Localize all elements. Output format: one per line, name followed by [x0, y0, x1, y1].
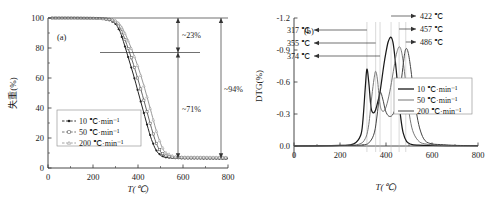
panel-a-legend-label: 10 ℃·min⁻¹: [79, 117, 120, 126]
panel-a-y-ticks: 020406080100: [31, 13, 51, 173]
panel-b-y-tick-label: 0.0: [279, 141, 290, 151]
panel-a-curve-marker: [159, 153, 161, 155]
panel-a-curve-marker: [140, 100, 142, 102]
panel-b-left-annotation-label: 374 ℃: [287, 52, 310, 61]
panel-b-y-tick-label: -0.3: [277, 109, 290, 119]
panel-a-x-axis-title: T(℃): [128, 184, 149, 194]
panel-a-curve-marker: [136, 64, 139, 67]
panel-a-curve-marker: [149, 134, 151, 136]
panel-a-curve-marker: [105, 17, 108, 20]
panel-a-x-tick-label: 600: [177, 172, 190, 182]
panel-b-x-tick-label: 0: [292, 150, 296, 160]
panel-a-curve-marker: [159, 149, 161, 151]
annotation-71-label: ~71%: [182, 105, 201, 114]
panel-a-curve-marker: [152, 143, 154, 145]
panel-a-curve-marker: [121, 36, 123, 38]
panel-a-curve-marker: [152, 133, 154, 135]
panel-a-curve-marker: [190, 156, 193, 159]
panel-a-curve-marker: [209, 156, 212, 159]
panel-a-curve-marker: [212, 156, 215, 159]
panel-a-curve-marker: [155, 130, 158, 133]
panel-b-right-annotation-label: 486 ℃: [420, 38, 443, 47]
panel-a-curve-marker: [149, 107, 152, 110]
panel-b-x-tick-label: 400: [380, 150, 393, 160]
panel-a-svg: 020406080100 0200400600800: [0, 0, 248, 204]
figure-tga-dtg: 020406080100 0200400600800: [0, 0, 496, 204]
panel-a-curve-marker: [165, 155, 167, 157]
panel-a-curve-marker: [133, 55, 136, 58]
panel-a-curve-marker: [118, 25, 120, 27]
panel-b-svg: 0.0-0.3-0.6-0.9-1.2 0200400600800 317 ℃3…: [248, 0, 496, 204]
panel-b-x-axis-title: T(℃): [376, 182, 397, 192]
panel-a-curve-marker: [152, 118, 155, 121]
panel-a-annotation-arrow-23: [176, 18, 180, 53]
panel-a-curve-marker: [162, 153, 164, 155]
panel-a-curve-marker: [193, 156, 196, 159]
panel-a-x-tick-label: 400: [132, 172, 145, 182]
panel-a-legend-label: 200 ℃·min⁻¹: [79, 139, 124, 148]
panel-a-legend-marker: [68, 120, 71, 123]
panel-b-y-axis-title: DTG(%): [254, 70, 264, 102]
panel-a-y-tick-label: 60: [36, 73, 45, 83]
panel-b-right-annotation-label: 422 ℃: [420, 12, 443, 21]
panel-b-legend: 10 ℃·min⁻¹50 ℃·min⁻¹200 ℃·min⁻¹: [394, 78, 472, 116]
panel-a-legend-label: 50 ℃·min⁻¹: [79, 128, 120, 137]
panel-a-curve-marker: [130, 57, 132, 59]
panel-a-curve-marker: [206, 156, 209, 159]
panel-a-curve-marker: [124, 38, 126, 40]
panel-a-x-ticks: 0200400600800: [46, 165, 235, 183]
panel-b-dtg: 0.0-0.3-0.6-0.9-1.2 0200400600800 317 ℃3…: [248, 0, 496, 204]
panel-b-left-annotations: 317 ℃355 ℃374 ℃: [287, 26, 380, 61]
panel-a-curve-marker: [187, 156, 190, 159]
panel-a-curve-marker: [146, 95, 149, 98]
panel-a-annotation-arrow-71: [176, 53, 180, 159]
panel-b-x-tick-label: 800: [472, 150, 485, 160]
panel-b-left-annotation-label: 355 ℃: [287, 39, 310, 48]
panel-b-right-annotation-label: 457 ℃: [420, 25, 443, 34]
panel-a-y-tick-label: 40: [36, 103, 45, 113]
panel-a-curve-marker: [118, 28, 120, 30]
panel-a-curve-marker: [133, 77, 135, 79]
panel-b-y-tick-label: -1.2: [277, 13, 290, 23]
panel-a-curve-marker: [168, 153, 171, 156]
panel-a-curve-marker: [114, 19, 117, 22]
panel-a-label: (a): [57, 32, 67, 42]
panel-a-curve-marker: [143, 99, 145, 101]
panel-b-y-tick-label: -0.6: [277, 77, 290, 87]
panel-a-curve-marker: [215, 156, 218, 159]
panel-a-y-tick-label: 0: [40, 163, 44, 173]
panel-a-curve-marker: [196, 156, 199, 159]
panel-a-tga: 020406080100 0200400600800: [0, 0, 248, 204]
annotation-23-label: ~23%: [182, 31, 201, 40]
panel-a-curve-marker: [127, 47, 129, 49]
panel-a-y-tick-label: 80: [36, 43, 45, 53]
panel-a-curve-marker: [143, 112, 145, 114]
panel-a-annotation-lines: [48, 18, 228, 53]
panel-a-curve-marker: [130, 47, 133, 50]
panel-a-curve-marker: [199, 156, 202, 159]
panel-a-curve-marker: [121, 31, 123, 33]
panel-b-legend-label: 200 ℃·min⁻¹: [417, 107, 462, 116]
panel-a-curve-marker: [224, 156, 227, 159]
panel-a-y-tick-label: 100: [31, 13, 44, 23]
panel-b-label: (b): [304, 26, 314, 36]
panel-a-curve-marker: [136, 89, 138, 91]
panel-a-curve-marker: [149, 122, 151, 124]
panel-a-y-tick-label: 20: [36, 133, 45, 143]
panel-a-curve-marker: [202, 156, 205, 159]
panel-a-curve-marker: [174, 155, 177, 158]
panel-a-annotation-arrow-94: [219, 18, 223, 158]
panel-a-curve-marker: [136, 77, 138, 79]
panel-b-x-tick-label: 200: [334, 150, 347, 160]
panel-a-curve-marker: [146, 111, 148, 113]
panel-a-x-tick-label: 0: [46, 172, 50, 182]
panel-a-y-axis-title: 失重(%): [7, 77, 18, 109]
panel-a-curve-marker: [111, 18, 114, 21]
annotation-94-label: ~94%: [224, 85, 243, 94]
panel-b-x-tick-label: 600: [426, 150, 439, 160]
panel-a-x-tick-label: 200: [87, 172, 100, 182]
panel-b-legend-label: 10 ℃·min⁻¹: [417, 85, 458, 94]
panel-a-legend-marker: [68, 131, 71, 134]
panel-a-curve-marker: [139, 74, 142, 77]
panel-a-curve-marker: [155, 149, 157, 151]
